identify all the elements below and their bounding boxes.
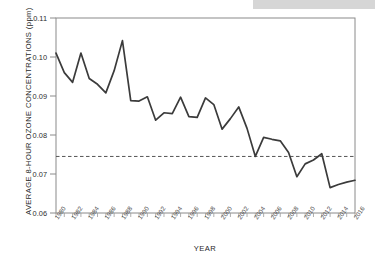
y-tick-label-3: 0.09 — [33, 92, 47, 101]
x-tick-label-2016: 2016 — [352, 205, 366, 221]
ozone-data-line — [56, 41, 355, 188]
y-tick-label-1: 0.07 — [33, 170, 47, 179]
x-axis-title: YEAR — [194, 244, 216, 253]
y-tick-label-4: 0.10 — [33, 53, 47, 62]
ozone-trend-chart-figure: 0.06 0.07 0.08 0.09 0.10 0.11 AVERAGE 8-… — [0, 0, 375, 262]
ozone-line-chart: 0.06 0.07 0.08 0.09 0.10 0.11 AVERAGE 8-… — [0, 0, 375, 262]
scan-artifact-bar — [253, 0, 375, 9]
y-axis-group: 0.06 0.07 0.08 0.09 0.10 0.11 — [33, 14, 56, 218]
y-tick-label-5: 0.11 — [33, 14, 47, 23]
y-axis-title: AVERAGE 8-HOUR OZONE CONCENTRATIONS (ppm… — [24, 7, 33, 215]
plot-frame — [56, 18, 355, 213]
y-tick-label-2: 0.08 — [33, 131, 47, 140]
y-tick-label-0: 0.06 — [33, 209, 47, 218]
